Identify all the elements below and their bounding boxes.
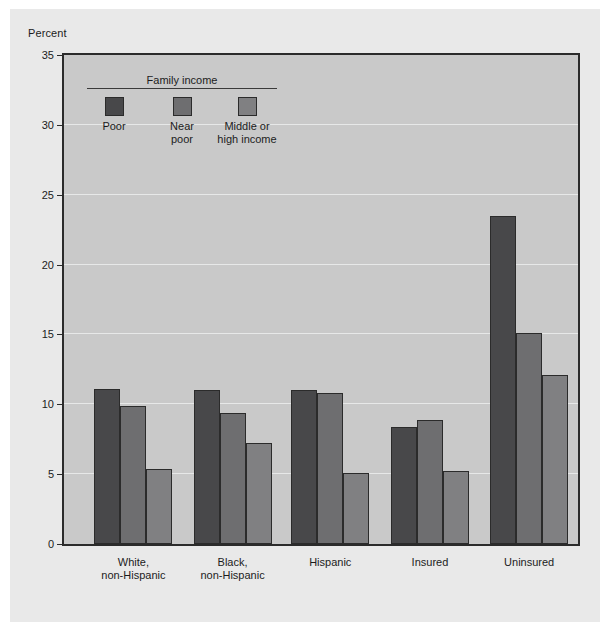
y-axis-tick-label: 5	[8, 468, 54, 480]
legend-item: Middle or high income	[210, 97, 284, 145]
bar	[291, 390, 317, 544]
y-axis-title: Percent	[28, 27, 67, 39]
clipped-header-sliver	[18, 0, 592, 6]
y-axis-tick-label: 25	[8, 189, 54, 201]
plot-area: Family income PoorNear poorMiddle or hig…	[62, 53, 580, 546]
bar	[443, 471, 469, 544]
y-axis-tick-label: 10	[8, 398, 54, 410]
y-axis-tick-label: 20	[8, 259, 54, 271]
bar	[417, 420, 443, 544]
bar	[246, 443, 272, 544]
bar	[317, 393, 343, 544]
legend-item: Poor	[77, 97, 151, 133]
legend-swatch	[105, 97, 124, 116]
bar	[343, 473, 369, 544]
y-axis-tick-label: 15	[8, 328, 54, 340]
bar	[516, 333, 542, 544]
bar	[542, 375, 568, 544]
y-axis-tick-label: 0	[8, 538, 54, 550]
bar	[220, 413, 246, 544]
legend-swatch	[173, 97, 192, 116]
legend-item-label: Poor	[77, 120, 151, 133]
bar	[146, 469, 172, 544]
bar	[194, 390, 220, 544]
y-axis-tick-label: 35	[8, 49, 54, 61]
figure-canvas: Percent 05101520253035 Family income Poo…	[0, 0, 610, 631]
y-axis-tick-label: 30	[8, 119, 54, 131]
legend-item-label: Near poor	[145, 120, 219, 145]
bar	[391, 427, 417, 544]
legend-swatch	[238, 97, 257, 116]
bar	[94, 389, 120, 544]
legend-items: PoorNear poorMiddle or high income	[87, 97, 277, 141]
legend: Family income PoorNear poorMiddle or hig…	[87, 74, 277, 141]
legend-item: Near poor	[145, 97, 219, 145]
legend-title: Family income	[87, 74, 277, 86]
bar	[120, 406, 146, 544]
legend-divider	[87, 88, 277, 89]
bar	[490, 216, 516, 544]
x-axis-category-label: Uninsured	[464, 556, 594, 569]
legend-item-label: Middle or high income	[210, 120, 284, 145]
